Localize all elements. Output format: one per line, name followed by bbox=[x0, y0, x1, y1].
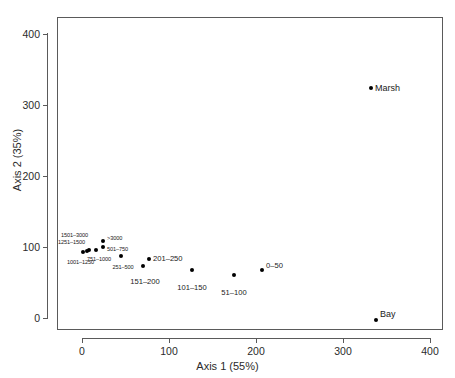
x-tick-label-200: 200 bbox=[247, 345, 265, 357]
data-label-gt3000: >3000 bbox=[107, 235, 122, 241]
x-tick-100 bbox=[169, 338, 170, 343]
x-tick-label-400: 400 bbox=[421, 345, 439, 357]
data-point-bay bbox=[374, 318, 378, 322]
data-label-marsh: Marsh bbox=[375, 83, 400, 93]
y-tick-0 bbox=[43, 318, 48, 319]
y-tick-300 bbox=[43, 105, 48, 106]
x-tick-200 bbox=[256, 338, 257, 343]
data-label-1251-1500: 1251–1500 bbox=[58, 239, 85, 245]
data-label-51-100: 51–100 bbox=[221, 288, 246, 297]
data-point-151-200 bbox=[141, 264, 145, 268]
y-tick-100 bbox=[43, 247, 48, 248]
y-tick-label-100: 100 bbox=[22, 241, 40, 253]
data-label-0-50: 0–50 bbox=[266, 261, 283, 270]
data-point-gt3000 bbox=[101, 239, 105, 243]
data-label-bay: Bay bbox=[380, 309, 396, 319]
data-label-251-500: 251–500 bbox=[112, 264, 133, 270]
data-point-201-250 bbox=[147, 257, 151, 261]
data-point-1501-3000 bbox=[81, 250, 85, 254]
y-tick-label-200: 200 bbox=[22, 170, 40, 182]
x-axis-title: Axis 1 (55%) bbox=[0, 360, 455, 372]
data-label-1501-3000: 1501–3000 bbox=[61, 232, 88, 238]
x-tick-300 bbox=[343, 338, 344, 343]
data-point-101-150 bbox=[190, 268, 194, 272]
data-point-251-500 bbox=[119, 254, 123, 258]
y-tick-label-300: 300 bbox=[22, 99, 40, 111]
data-label-1001-1250: 1001–1250 bbox=[67, 259, 94, 265]
data-label-201-250: 201–250 bbox=[153, 254, 183, 263]
scatter-plot-figure: 0 100 200 300 400 0 100 200 300 400 Axis… bbox=[0, 0, 455, 378]
data-point-0-50 bbox=[260, 268, 264, 272]
y-tick-400 bbox=[43, 34, 48, 35]
y-axis-title: Axis 2 (35%) bbox=[11, 70, 23, 250]
y-tick-label-0: 0 bbox=[34, 312, 40, 324]
plot-area-frame bbox=[57, 17, 443, 330]
y-tick-200 bbox=[43, 176, 48, 177]
x-tick-label-300: 300 bbox=[334, 345, 352, 357]
data-point-1251-1500 bbox=[87, 248, 91, 252]
data-point-marsh bbox=[369, 86, 373, 90]
data-point-501-750 bbox=[101, 245, 105, 249]
x-tick-0 bbox=[82, 338, 83, 343]
x-tick-label-100: 100 bbox=[160, 345, 178, 357]
y-tick-label-400: 400 bbox=[22, 28, 40, 40]
data-point-751-1000 bbox=[94, 248, 98, 252]
data-label-101-150: 101–150 bbox=[177, 283, 207, 292]
data-label-501-750: 501–750 bbox=[107, 246, 128, 252]
x-tick-400 bbox=[430, 338, 431, 343]
data-label-151-200: 151–200 bbox=[130, 277, 160, 286]
x-tick-label-0: 0 bbox=[79, 345, 85, 357]
data-point-51-100 bbox=[232, 273, 236, 277]
